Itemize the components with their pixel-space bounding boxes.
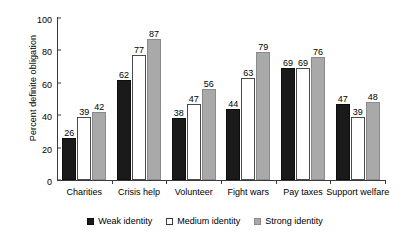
bar: 38 bbox=[172, 118, 186, 180]
y-tick-text: 0 bbox=[47, 177, 57, 187]
bar-value-label: 77 bbox=[134, 45, 144, 55]
x-tick-label: Charities bbox=[67, 187, 103, 197]
bar: 42 bbox=[92, 112, 106, 180]
y-tick-mark bbox=[57, 180, 61, 181]
y-tick-mark bbox=[57, 147, 61, 148]
y-tick-mark bbox=[57, 115, 61, 116]
x-tick-mark bbox=[112, 180, 113, 184]
bar-value-label: 47 bbox=[338, 94, 348, 104]
y-tick-mark bbox=[57, 50, 61, 51]
bar: 77 bbox=[132, 55, 146, 180]
bar: 39 bbox=[351, 117, 365, 180]
bar-chart: Percent definite obligation 020406080100… bbox=[0, 0, 410, 243]
bar: 76 bbox=[311, 57, 325, 180]
bar-value-label: 39 bbox=[353, 107, 363, 117]
y-tick-mark bbox=[57, 18, 61, 19]
bar: 47 bbox=[336, 104, 350, 180]
y-tick-label: 0 bbox=[0, 171, 57, 189]
bar-value-label: 42 bbox=[94, 102, 104, 112]
legend-item[interactable]: Weak identity bbox=[87, 216, 152, 226]
x-tick-mark bbox=[385, 180, 386, 184]
bar: 79 bbox=[256, 52, 270, 180]
bar: 47 bbox=[187, 104, 201, 180]
y-tick-mark bbox=[57, 82, 61, 83]
bar-group: 446379 bbox=[226, 18, 270, 180]
x-tick-label: Fight wars bbox=[228, 187, 270, 197]
y-tick-text: 40 bbox=[42, 112, 57, 122]
x-tick-label: Volunteer bbox=[175, 187, 213, 197]
y-tick-text: 100 bbox=[37, 15, 57, 25]
bar-value-label: 69 bbox=[298, 58, 308, 68]
bar-value-label: 87 bbox=[149, 29, 159, 39]
y-axis-line bbox=[57, 17, 58, 181]
bar-value-label: 47 bbox=[189, 94, 199, 104]
bar-group: 473948 bbox=[336, 18, 380, 180]
bar-value-label: 26 bbox=[64, 128, 74, 138]
bar: 44 bbox=[226, 109, 240, 180]
y-tick-label: 60 bbox=[0, 74, 57, 92]
bar-value-label: 44 bbox=[228, 99, 238, 109]
bar-value-label: 63 bbox=[243, 68, 253, 78]
x-tick-label: Crisis help bbox=[118, 187, 160, 197]
bar-group: 384756 bbox=[172, 18, 216, 180]
x-tick-label: Support welfare bbox=[326, 187, 389, 197]
bar-value-label: 38 bbox=[174, 108, 184, 118]
y-tick-text: 80 bbox=[42, 47, 57, 57]
y-tick-label: 80 bbox=[0, 41, 57, 59]
bar-value-label: 69 bbox=[283, 58, 293, 68]
legend-item[interactable]: Strong identity bbox=[254, 216, 323, 226]
bar-group: 696976 bbox=[281, 18, 325, 180]
bar-value-label: 56 bbox=[204, 79, 214, 89]
legend-label: Strong identity bbox=[265, 216, 323, 226]
y-tick-text: 60 bbox=[42, 80, 57, 90]
bar: 63 bbox=[241, 78, 255, 180]
y-tick-text: 20 bbox=[42, 145, 57, 155]
legend: Weak identityMedium identityStrong ident… bbox=[0, 216, 410, 226]
bar: 39 bbox=[77, 117, 91, 180]
bar-value-label: 79 bbox=[258, 42, 268, 52]
bar: 62 bbox=[117, 80, 131, 180]
legend-swatch-icon bbox=[87, 218, 94, 225]
bar-value-label: 48 bbox=[368, 92, 378, 102]
bar: 87 bbox=[147, 39, 161, 180]
y-tick-label: 100 bbox=[0, 9, 57, 27]
legend-item[interactable]: Medium identity bbox=[166, 216, 240, 226]
x-tick-mark bbox=[221, 180, 222, 184]
x-tick-mark bbox=[166, 180, 167, 184]
bar-value-label: 39 bbox=[79, 107, 89, 117]
legend-label: Weak identity bbox=[98, 216, 152, 226]
legend-label: Medium identity bbox=[177, 216, 240, 226]
x-tick-mark bbox=[276, 180, 277, 184]
bar-group: 263942 bbox=[62, 18, 106, 180]
x-tick-mark bbox=[330, 180, 331, 184]
bar: 26 bbox=[62, 138, 76, 180]
x-tick-label: Pay taxes bbox=[283, 187, 323, 197]
bar: 48 bbox=[366, 102, 380, 180]
legend-swatch-icon bbox=[166, 218, 173, 225]
y-tick-label: 20 bbox=[0, 139, 57, 157]
bar: 56 bbox=[202, 89, 216, 180]
legend-swatch-icon bbox=[254, 218, 261, 225]
bar: 69 bbox=[281, 68, 295, 180]
bar-value-label: 62 bbox=[119, 70, 129, 80]
y-tick-label: 40 bbox=[0, 106, 57, 124]
bar-value-label: 76 bbox=[313, 47, 323, 57]
bar: 69 bbox=[296, 68, 310, 180]
bar-group: 627787 bbox=[117, 18, 161, 180]
